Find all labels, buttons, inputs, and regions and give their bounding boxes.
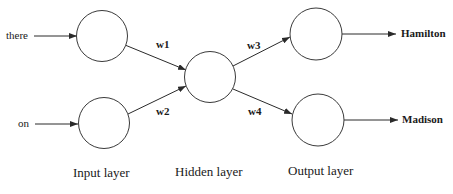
input-node-1 <box>77 11 128 62</box>
layer-label-hidden: Hidden layer <box>175 165 243 178</box>
weight-label-w2: w2 <box>156 106 169 117</box>
input-label-there: there <box>6 30 28 41</box>
input-node-2 <box>79 98 130 149</box>
output-node-1 <box>290 8 342 60</box>
input-label-on: on <box>18 118 29 129</box>
output-label-hamilton: Hamilton <box>401 28 446 39</box>
output-node-2 <box>292 94 344 146</box>
weight-label-w1: w1 <box>156 39 169 50</box>
layer-label-output: Output layer <box>288 164 353 177</box>
weight-label-w3: w3 <box>247 40 260 51</box>
neural-network-diagram: there on w1 w2 w3 w4 Hamilton Madison In… <box>0 0 453 194</box>
layer-label-input: Input layer <box>73 166 130 179</box>
output-label-madison: Madison <box>402 114 443 125</box>
weight-label-w4: w4 <box>248 106 261 117</box>
edge-w3 <box>233 37 290 66</box>
edge-w4 <box>233 89 292 114</box>
hidden-node <box>185 52 236 103</box>
